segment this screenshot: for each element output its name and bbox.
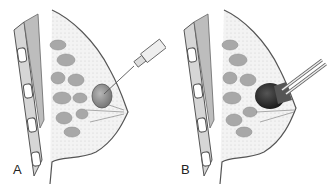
cyst bbox=[92, 84, 112, 108]
panel-label-a: A bbox=[13, 162, 22, 177]
breast-needle-illustration bbox=[0, 0, 166, 184]
breast-probe-illustration bbox=[166, 0, 332, 184]
panel-a: A bbox=[0, 0, 166, 184]
panel-label-b: B bbox=[181, 162, 190, 177]
panel-b: B bbox=[166, 0, 332, 184]
